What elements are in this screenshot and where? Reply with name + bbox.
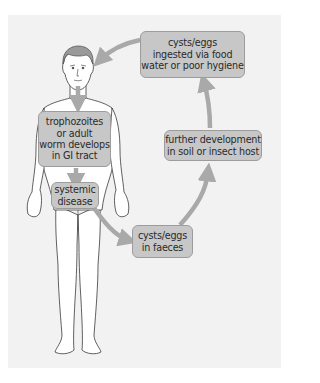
node-ingested-label: cysts/eggs ingested via food water or po… <box>141 37 243 71</box>
node-further-development: further development in soil or insect ho… <box>164 130 262 161</box>
node-ingested: cysts/eggs ingested via food water or po… <box>140 31 245 78</box>
node-further-development-label: further development in soil or insect ho… <box>165 134 261 157</box>
node-faeces-label: cysts/eggs in faeces <box>138 230 187 253</box>
node-systemic-disease-label: systemic disease <box>54 184 95 207</box>
node-gi-tract-label: trophozoites or adult worm develops in G… <box>39 116 109 162</box>
node-faeces: cysts/eggs in faeces <box>132 225 193 258</box>
node-systemic-disease: systemic disease <box>51 182 99 209</box>
node-gi-tract: trophozoites or adult worm develops in G… <box>38 111 111 167</box>
